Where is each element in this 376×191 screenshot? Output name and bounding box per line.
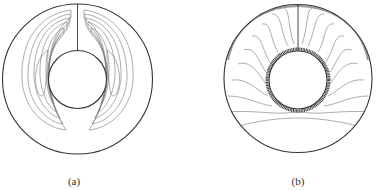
inner-cylinder-b [269,51,327,109]
panel-b-label: (b) [292,175,305,187]
panel-a-label: (a) [68,175,80,187]
figure-canvas [0,0,376,191]
panel-b-diagram [224,4,372,153]
inner-cylinder-a [49,51,107,109]
panel-a-diagram [3,4,153,154]
